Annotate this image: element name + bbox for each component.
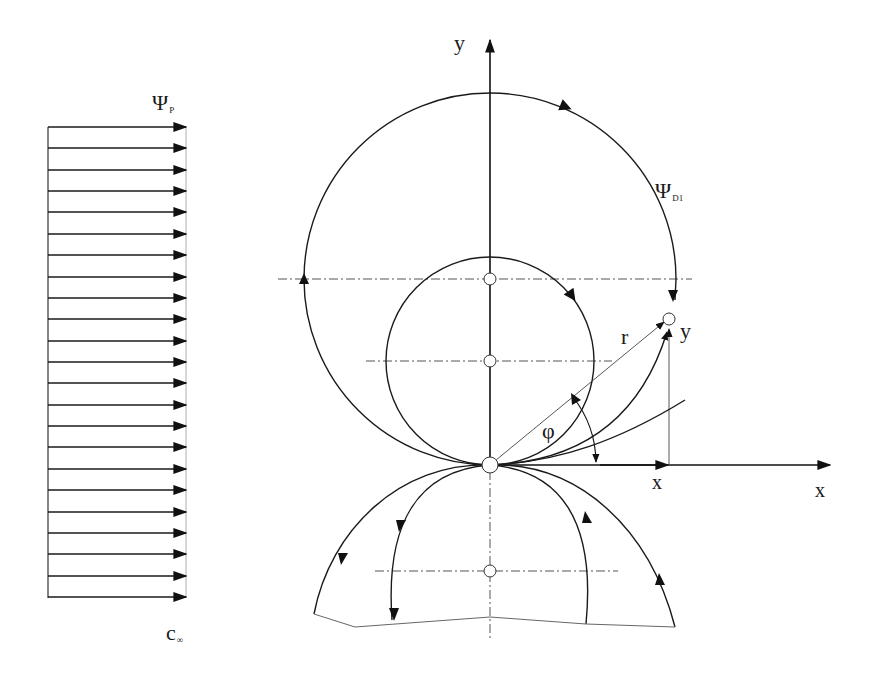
axes xyxy=(490,40,830,465)
x-axis-label: x xyxy=(815,480,825,500)
angle-label: φ xyxy=(542,420,555,442)
y-axis-label: y xyxy=(454,32,465,54)
x-coordinate-label: x xyxy=(652,472,662,492)
lower-small-arc-right xyxy=(490,465,588,624)
doublet-flow-label: ΨD1 xyxy=(655,180,683,203)
lower-small-arc-left xyxy=(391,465,490,620)
lower-arrow-4 xyxy=(582,511,592,523)
big-circle-arrow-down xyxy=(668,290,678,302)
velocity-symbol: c xyxy=(166,620,176,645)
small-circle-center xyxy=(484,355,496,367)
psi-d-subscript: D1 xyxy=(672,193,683,203)
doublet-flow-diagram xyxy=(0,0,872,676)
big-circle-center xyxy=(484,273,496,285)
lower-arrow-3 xyxy=(389,608,399,621)
lower-circle-center xyxy=(484,565,496,577)
origin-point xyxy=(482,457,498,473)
radius-label: r xyxy=(621,326,628,348)
y-coordinate-label: y xyxy=(680,320,691,342)
uniform-flow-arrows xyxy=(48,127,186,598)
psi-d-symbol: Ψ xyxy=(655,178,671,203)
lower-boundary xyxy=(314,614,675,627)
psi-p-subscript: P xyxy=(169,105,174,115)
angle-phi-arc xyxy=(573,397,596,462)
freestream-velocity-label: c∞ xyxy=(166,622,183,645)
flatter-streamline xyxy=(490,400,685,465)
lower-big-arc xyxy=(314,465,490,614)
psi-symbol: Ψ xyxy=(152,90,168,115)
parallel-flow-arrow-group xyxy=(48,127,186,597)
lower-streamlines xyxy=(314,465,675,627)
point-p xyxy=(663,313,675,325)
lower-arrow-1 xyxy=(338,553,348,565)
infinity-subscript: ∞ xyxy=(177,635,183,645)
uniform-flow-label: ΨP xyxy=(152,92,174,115)
